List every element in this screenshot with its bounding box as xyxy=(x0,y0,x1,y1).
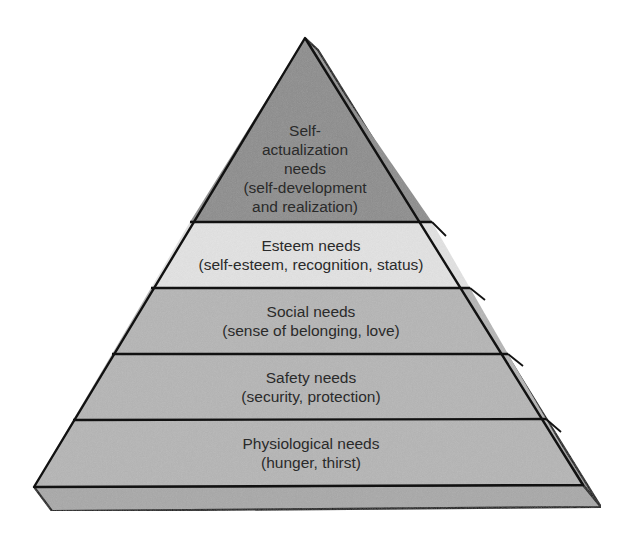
label-detail: (security, protection) xyxy=(241,387,380,406)
label-title: Safety needs xyxy=(241,368,380,387)
label-line: and realization) xyxy=(243,197,366,216)
label-detail: (sense of belonging, love) xyxy=(222,321,400,340)
label-esteem: Esteem needs (self-esteem, recognition, … xyxy=(199,236,424,274)
label-detail: (hunger, thirst) xyxy=(242,453,379,472)
label-detail: (self-esteem, recognition, status) xyxy=(199,255,424,274)
label-line: actualization xyxy=(243,140,366,159)
label-line: needs xyxy=(243,159,366,178)
label-title: Esteem needs xyxy=(199,236,424,255)
label-social: Social needs (sense of belonging, love) xyxy=(222,302,400,340)
pyramid-base-slab xyxy=(34,485,601,511)
label-line: Self- xyxy=(243,121,366,140)
label-line: (self-development xyxy=(243,178,366,197)
divider-line xyxy=(73,419,546,420)
label-self-actualization: Self- actualization needs (self-developm… xyxy=(243,121,366,216)
label-title: Social needs xyxy=(222,302,400,321)
label-physiological: Physiological needs (hunger, thirst) xyxy=(242,434,379,472)
label-safety: Safety needs (security, protection) xyxy=(241,368,380,406)
label-title: Physiological needs xyxy=(242,434,379,453)
